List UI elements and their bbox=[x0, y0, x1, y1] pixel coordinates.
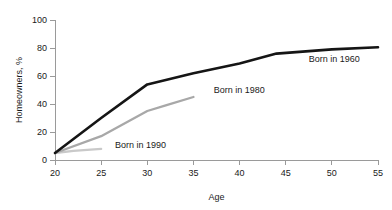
line-chart: 0204060801002025303540455055AgeHomeowner… bbox=[0, 0, 392, 210]
y-tick-label: 100 bbox=[32, 15, 47, 25]
series-label-born-in-1990: Born in 1990 bbox=[115, 140, 166, 150]
y-tick-label: 40 bbox=[37, 99, 47, 109]
y-tick-label: 20 bbox=[37, 127, 47, 137]
x-axis-title: Age bbox=[208, 192, 224, 202]
x-tick-label: 45 bbox=[281, 168, 291, 178]
x-tick-label: 20 bbox=[50, 168, 60, 178]
series-label-born-in-1960: Born in 1960 bbox=[309, 54, 360, 64]
y-tick-label: 0 bbox=[42, 155, 47, 165]
x-tick-label: 30 bbox=[142, 168, 152, 178]
y-tick-label: 60 bbox=[37, 71, 47, 81]
x-tick-label: 35 bbox=[188, 168, 198, 178]
series-label-born-in-1980: Born in 1980 bbox=[214, 85, 265, 95]
x-tick-label: 25 bbox=[96, 168, 106, 178]
x-tick-label: 40 bbox=[235, 168, 245, 178]
x-tick-label: 50 bbox=[327, 168, 337, 178]
x-tick-label: 55 bbox=[373, 168, 383, 178]
chart-container: 0204060801002025303540455055AgeHomeowner… bbox=[0, 0, 392, 210]
y-axis-title: Homeowners, % bbox=[14, 57, 24, 123]
y-tick-label: 80 bbox=[37, 43, 47, 53]
